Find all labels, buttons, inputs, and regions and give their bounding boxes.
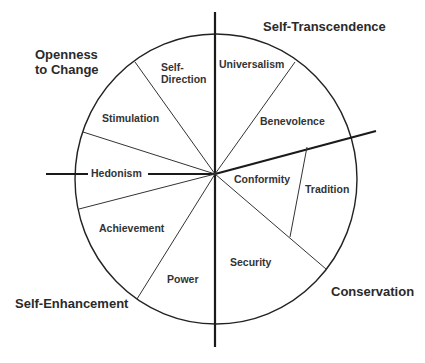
group-label-line: Openness: [35, 48, 99, 63]
group-label-self-transcendence: Self-Transcendence: [263, 20, 386, 35]
value-label-tradition: Tradition: [305, 183, 349, 195]
group-label-self-enhancement: Self-Enhancement: [15, 297, 128, 312]
value-label-hedonism: Hedonism: [91, 167, 142, 179]
group-label-openness: Openness to Change: [35, 48, 99, 78]
group-label-line: to Change: [35, 63, 99, 78]
value-label-conformity: Conformity: [234, 173, 290, 185]
group-label-conservation: Conservation: [331, 285, 414, 300]
conservation-axis: [215, 131, 376, 174]
value-label-achievement: Achievement: [99, 222, 164, 234]
value-label-security: Security: [230, 256, 271, 268]
value-label-benevolence: Benevolence: [260, 115, 325, 127]
value-label-self-direction: Self- Direction: [161, 61, 207, 85]
value-label-line: Direction: [161, 73, 207, 85]
value-label-power: Power: [167, 273, 199, 285]
value-label-universalism: Universalism: [219, 58, 284, 70]
value-label-line: Self-: [161, 61, 207, 73]
spoke-achievement: [79, 174, 215, 209]
value-label-stimulation: Stimulation: [102, 112, 159, 124]
